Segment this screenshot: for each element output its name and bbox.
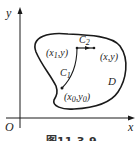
figure-caption: 图11-3-9 xyxy=(46,135,97,141)
curve-label-c1: C1 xyxy=(60,67,71,80)
y-axis-label: y xyxy=(5,6,12,20)
point-x1-y xyxy=(76,47,79,50)
origin-label: O xyxy=(5,120,14,134)
x-axis-label: x xyxy=(127,120,134,134)
axes xyxy=(6,12,131,128)
point-label-x0-y0: (x0,y0) xyxy=(64,91,91,104)
region-label-d: D xyxy=(107,75,116,87)
point-label-x1-y: (x1,y) xyxy=(46,47,69,60)
point-x0-y0 xyxy=(61,87,64,90)
point-label-x-y: (x,y) xyxy=(100,51,119,63)
point-x-y xyxy=(93,47,96,50)
figure-canvas: y O x (x1,y) C2 (x,y) C1 D (x0,y0) 图11-3… xyxy=(0,0,137,141)
y-axis-arrow-icon xyxy=(18,7,23,14)
